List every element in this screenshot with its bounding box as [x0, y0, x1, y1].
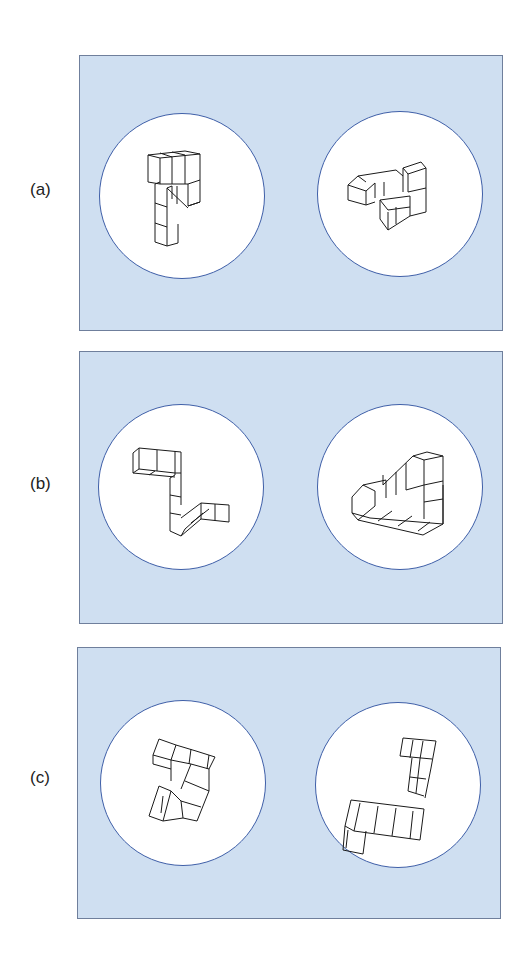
- row-label-c: (c): [30, 768, 50, 788]
- circle-b-right: [317, 404, 483, 570]
- circle-a-left: [99, 113, 265, 279]
- cube-object-a-right-icon: [318, 112, 484, 278]
- row-label-a: (a): [30, 180, 51, 200]
- circle-c-right: [315, 702, 481, 868]
- cube-object-b-left-icon: [99, 405, 265, 571]
- cube-object-a-left-icon: [100, 114, 266, 280]
- cube-object-c-left-icon: [101, 701, 267, 867]
- circle-c-left: [100, 700, 266, 866]
- panel-a: [79, 55, 503, 331]
- panel-b: [79, 351, 503, 624]
- circle-a-right: [317, 111, 483, 277]
- circle-b-left: [98, 404, 264, 570]
- panel-c: [77, 647, 501, 919]
- row-label-b: (b): [30, 474, 51, 494]
- cube-object-c-right-icon: [316, 703, 482, 869]
- cube-object-b-right-icon: [318, 405, 484, 571]
